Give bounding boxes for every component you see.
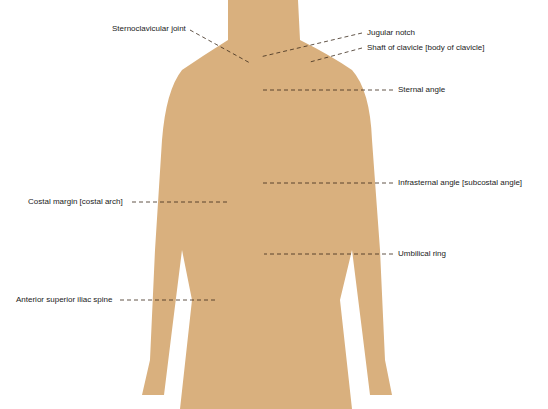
label-umbilical-ring: Umbilical ring [398, 249, 446, 259]
label-costal-margin: Costal margin [costal arch] [28, 197, 123, 207]
label-jugular-notch: Jugular notch [367, 28, 415, 38]
label-sternoclavicular-joint: Sternoclavicular joint [112, 24, 186, 34]
anatomy-diagram: Sternoclavicular joint Jugular notch Sha… [0, 0, 548, 409]
label-anterior-superior-iliac-spine: Anterior superior iliac spine [16, 295, 113, 305]
label-shaft-of-clavicle: Shaft of clavicle [body of clavicle] [367, 43, 484, 53]
label-sternal-angle: Sternal angle [398, 85, 445, 95]
label-infrasternal-angle: Infrasternal angle [subcostal angle] [398, 178, 522, 188]
